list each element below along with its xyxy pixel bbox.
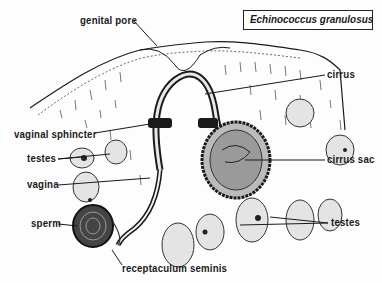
label-vaginal-sphincter: vaginal sphincter [14, 128, 97, 140]
label-vagina: vagina [27, 178, 59, 190]
species-title-box: Echinococcus granulosus [243, 10, 373, 30]
label-receptaculum-seminis: receptaculum seminis [122, 262, 227, 274]
label-cirrus-sac: cirrus sac [327, 153, 374, 165]
label-genital-pore: genital pore [80, 14, 137, 26]
label-cirrus: cirrus [327, 68, 355, 80]
diagram-canvas: Echinococcus granulosus genital pore cir… [0, 0, 382, 283]
label-testes-right: testes [331, 216, 360, 228]
echinococcus-illustration [0, 0, 382, 283]
label-sperm: sperm [31, 217, 61, 229]
species-title: Echinococcus granulosus [250, 13, 373, 25]
label-testes-left: testes [27, 152, 56, 164]
